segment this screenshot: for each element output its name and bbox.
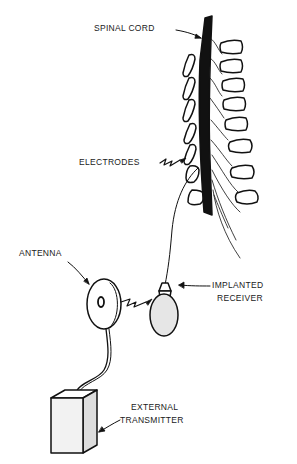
implanted-receiver (150, 283, 178, 336)
label-electrodes: ELECTRODES (79, 157, 140, 168)
label-spinal-cord: SPINAL CORD (94, 23, 155, 34)
external-transmitter (51, 390, 97, 453)
label-implanted: IMPLANTED (212, 280, 263, 291)
label-transmitter: TRANSMITTER (120, 415, 184, 426)
vertebrae-right (220, 40, 258, 204)
label-antenna: ANTENNA (19, 248, 62, 259)
electrodes-pointer (160, 159, 180, 166)
nerve-roots (210, 38, 240, 258)
signal-zigzag (121, 299, 146, 307)
lead-wire (165, 168, 198, 285)
label-external: EXTERNAL (131, 402, 178, 413)
label-receiver: RECEIVER (217, 293, 263, 304)
antenna (87, 279, 121, 329)
spinal-cord (199, 16, 212, 215)
diagram-canvas (0, 0, 297, 464)
